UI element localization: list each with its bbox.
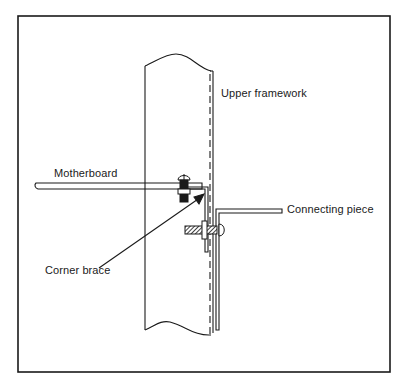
label-upper-framework: Upper framework bbox=[221, 87, 307, 99]
diagram-drawing bbox=[0, 0, 408, 388]
connecting-bolt bbox=[185, 221, 224, 239]
mounting-diagram: Upper framework Motherboard Connecting p… bbox=[0, 0, 408, 388]
label-motherboard: Motherboard bbox=[54, 167, 117, 179]
motherboard-screw bbox=[178, 174, 190, 202]
label-corner-brace: Corner brace bbox=[45, 264, 110, 276]
label-connecting-piece: Connecting piece bbox=[287, 203, 374, 215]
motherboard-shape bbox=[35, 183, 202, 189]
connecting-piece-shape bbox=[216, 209, 282, 330]
